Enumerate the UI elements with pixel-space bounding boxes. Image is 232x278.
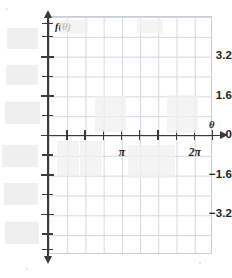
- scan-speck: [6, 8, 8, 10]
- scan-artifact-block: [7, 28, 38, 49]
- x-axis-tick: [157, 130, 158, 140]
- y-axis-tick: [41, 56, 54, 58]
- y-axis-tick: [42, 115, 53, 116]
- y-axis-tick: [42, 36, 53, 37]
- scan-artifact-block: [167, 95, 198, 133]
- y-axis-tick-label: 3.2: [188, 50, 232, 62]
- x-axis-tick: [139, 130, 140, 140]
- graph-figure: f(θ) θ 3.21.60−1.6−3.2π2π: [0, 0, 232, 278]
- scan-artifact-block: [128, 145, 152, 178]
- scan-artifact-block: [5, 222, 39, 244]
- y-axis-tick: [42, 249, 53, 250]
- x-axis-tick: [84, 130, 85, 140]
- y-axis-tick: [41, 174, 54, 176]
- y-axis-tick: [42, 76, 53, 77]
- y-axis-tick: [41, 95, 54, 97]
- scan-artifact-block: [60, 20, 88, 34]
- y-axis-tick: [41, 214, 54, 216]
- scan-artifact-block: [152, 145, 175, 178]
- x-axis-tick: [66, 130, 67, 140]
- y-axis-tick: [42, 154, 53, 155]
- scan-artifact-block: [80, 141, 102, 176]
- y-axis-arrow-down-icon: [44, 256, 52, 264]
- y-axis-tick: [42, 194, 53, 195]
- scan-speck: [26, 268, 28, 270]
- scan-artifact-block: [57, 141, 79, 176]
- scan-speck: [199, 262, 201, 264]
- y-axis-tick-label: −3.2: [188, 208, 232, 220]
- y-axis-arrow-up-icon: [44, 10, 52, 18]
- scan-artifact-block: [137, 20, 163, 33]
- x-axis-tick-label: 2π: [185, 147, 205, 159]
- y-axis-tick: [42, 233, 53, 234]
- scan-artifact-block: [4, 183, 38, 205]
- y-axis-tick: [42, 23, 53, 24]
- x-axis-tick: [48, 130, 49, 140]
- scan-artifact-block: [2, 145, 38, 167]
- scan-artifact-block: [5, 102, 40, 124]
- scan-artifact-block: [6, 65, 38, 85]
- x-axis-tick: [212, 130, 213, 140]
- scan-artifact-block: [95, 96, 126, 132]
- y-axis-tick-label: −1.6: [188, 169, 232, 181]
